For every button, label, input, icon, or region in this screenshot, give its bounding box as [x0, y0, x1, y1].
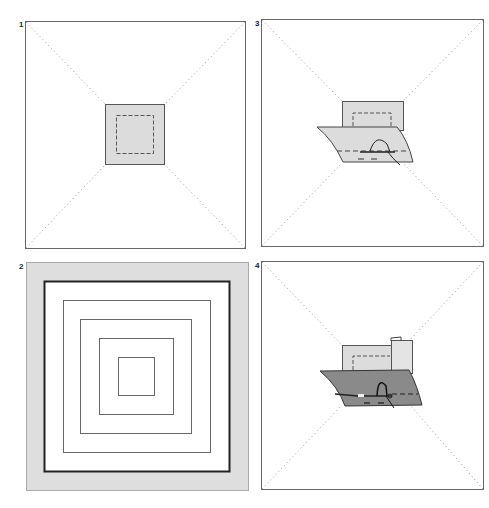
panel-3-drawing [0, 0, 489, 250]
panel-4-drawing [0, 250, 489, 508]
panel-4: 4 [0, 250, 489, 508]
panel-3: 3 [0, 0, 489, 250]
